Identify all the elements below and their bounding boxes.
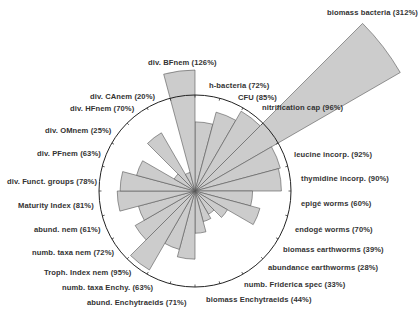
category-label: Maturity Index (81%) [18, 201, 94, 210]
tick-mark [112, 238, 114, 239]
tick-mark [127, 257, 129, 259]
category-label: biomass bacteria (312%) [327, 8, 418, 17]
category-label: h-bacteria (72%) [209, 81, 269, 90]
tick-mark [261, 257, 263, 259]
tick-mark [242, 272, 243, 274]
category-label: div. Funct. groups (78%) [7, 177, 97, 186]
category-label: biomass Enchytraeids (44%) [206, 295, 312, 304]
category-label: div. OMnem (25%) [45, 126, 111, 135]
tick-mark [276, 238, 278, 239]
category-label: numb. taxa Enchy. (63%) [62, 283, 153, 292]
tick-mark [147, 108, 148, 110]
category-label: thymidine incorp. (90%) [301, 174, 389, 183]
category-label: abund. Enchytraeids (71%) [87, 298, 187, 307]
category-label: div. HFnem (70%) [70, 104, 134, 113]
category-label: nitrification cap (96%) [262, 103, 343, 112]
category-label: abundance earthworms (28%) [268, 263, 378, 272]
category-label: div. BFnem (126%) [148, 58, 217, 67]
category-label: numb. Friderica spec (33%) [244, 280, 345, 289]
tick-mark [147, 272, 148, 274]
category-label: leucine incorp. (92%) [294, 150, 372, 159]
category-label: biomass earthworms (39%) [283, 245, 384, 254]
category-label: div. PFnem (63%) [37, 149, 101, 158]
tick-mark [112, 143, 114, 144]
category-label: abund. nem (61%) [34, 225, 101, 234]
category-label: epigé worms (60%) [301, 199, 372, 208]
tick-mark [127, 123, 129, 125]
tick-mark [242, 108, 243, 110]
category-label: CFU (85%) [238, 93, 277, 102]
category-label: numb. taxa nem (72%) [32, 248, 114, 257]
category-label: endogé worms (70%) [295, 225, 373, 234]
category-label: div. CAnem (20%) [90, 92, 155, 101]
category-label: Troph. Index nem (95%) [44, 268, 131, 277]
